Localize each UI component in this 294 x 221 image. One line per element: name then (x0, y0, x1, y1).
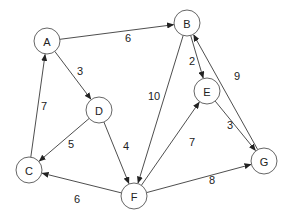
edge-weight-label: 3 (77, 65, 83, 77)
edge-a-to-d (55, 51, 91, 99)
node-d: D (86, 97, 112, 123)
node-label: C (25, 165, 33, 177)
node-e: E (194, 78, 220, 104)
node-c: C (16, 157, 42, 183)
edge-weight-label: 5 (68, 138, 74, 150)
edge-labels-layer: 6375461023978 (41, 32, 240, 205)
edge-weight-label: 8 (209, 174, 215, 186)
node-label: D (95, 105, 103, 117)
edge-weight-label: 7 (41, 100, 47, 112)
edge-weight-label: 6 (74, 193, 80, 205)
node-a: A (34, 28, 60, 54)
edge-weight-label: 3 (227, 119, 233, 131)
edge-e-to-g (215, 101, 255, 150)
node-label: B (183, 18, 190, 30)
node-b: B (174, 10, 200, 36)
edge-d-to-f (104, 122, 129, 184)
edge-f-to-c (42, 173, 121, 193)
edge-weight-label: 7 (189, 136, 195, 148)
node-label: E (203, 86, 210, 98)
node-g: G (251, 148, 277, 174)
edge-weight-label: 6 (125, 32, 131, 44)
edge-b-to-f (138, 35, 183, 183)
node-f: F (121, 183, 147, 209)
edge-weight-label: 9 (234, 70, 240, 82)
edge-weight-label: 2 (189, 55, 195, 67)
edge-weight-label: 4 (123, 140, 129, 152)
edges-layer (31, 25, 258, 193)
edge-a-to-b (60, 25, 174, 40)
edge-f-to-g (147, 165, 251, 193)
node-label: A (43, 36, 51, 48)
graph-diagram: ABCDEFG 6375461023978 (0, 0, 294, 221)
edge-weight-label: 10 (148, 90, 160, 102)
edge-d-to-c (39, 119, 89, 162)
nodes-layer: ABCDEFG (16, 10, 277, 209)
node-label: F (131, 191, 138, 203)
node-label: G (260, 156, 269, 168)
